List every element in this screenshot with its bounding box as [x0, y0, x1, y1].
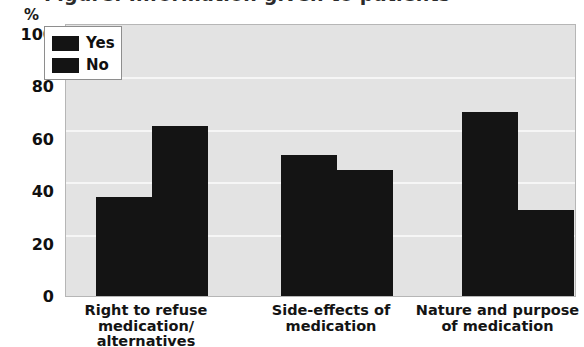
bar-no-side-effects — [337, 170, 393, 296]
y-axis-tick-20: 20 — [8, 235, 54, 254]
legend-label-no: No — [86, 58, 109, 73]
x-axis-label-nature-purpose: Nature and purpose of medication — [415, 303, 580, 334]
bar-no-nature-purpose — [518, 210, 574, 296]
bar-yes-nature-purpose — [462, 112, 518, 296]
y-axis-tick-40: 40 — [8, 182, 54, 201]
legend-swatch-yes — [52, 36, 79, 51]
x-axis-label-line: Side-effects of — [241, 303, 421, 319]
x-axis-label-side-effects: Side-effects of medication — [241, 303, 421, 334]
x-axis-label-line: of medication — [415, 319, 580, 335]
legend-label-yes: Yes — [86, 36, 115, 51]
plot-area — [65, 24, 576, 297]
x-axis-label-line: Right to refuse — [56, 303, 236, 319]
legend-item-yes: Yes — [52, 32, 121, 54]
x-axis-label-line: Nature and purpose — [415, 303, 580, 319]
x-axis-label-right-to-refuse: Right to refuse medication/ alternatives — [56, 303, 236, 347]
legend-item-no: No — [52, 54, 121, 76]
x-axis-label-line: alternatives — [56, 334, 236, 347]
y-axis-tick-60: 60 — [8, 130, 54, 149]
y-axis-tick-0: 0 — [8, 287, 54, 306]
x-axis-label-line: medication — [241, 319, 421, 335]
y-axis-unit-label: % — [24, 6, 39, 24]
chart-title-text: Figure: Information given to patients — [44, 0, 450, 5]
bar-no-right-to-refuse — [152, 126, 208, 296]
bar-yes-right-to-refuse — [96, 197, 152, 296]
gridline-80 — [66, 77, 575, 79]
bar-yes-side-effects — [281, 155, 337, 296]
chart-title-cutoff: Figure: Information given to patients — [0, 0, 584, 9]
legend: Yes No — [44, 26, 122, 80]
x-axis-label-line: medication/ — [56, 319, 236, 335]
legend-swatch-no — [52, 58, 79, 73]
